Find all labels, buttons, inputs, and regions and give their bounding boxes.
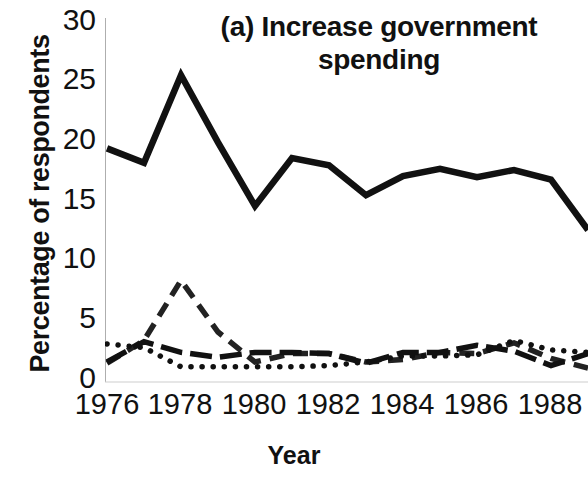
x-tick-1980: 1980 bbox=[222, 390, 287, 419]
x-axis-label: Year bbox=[0, 443, 588, 468]
x-tick-1982: 1982 bbox=[296, 390, 361, 419]
chart-figure: Percentage of respondents 30 25 20 15 10… bbox=[0, 0, 588, 484]
x-tick-1978: 1978 bbox=[148, 390, 213, 419]
x-tick-1976: 1976 bbox=[75, 390, 140, 419]
y-tick-25: 25 bbox=[38, 64, 96, 94]
x-tick-1984: 1984 bbox=[370, 390, 435, 419]
x-tick-1988: 1988 bbox=[518, 390, 583, 419]
y-tick-20: 20 bbox=[38, 124, 96, 154]
y-tick-30: 30 bbox=[38, 5, 96, 35]
y-tick-5: 5 bbox=[38, 303, 96, 333]
y-tick-15: 15 bbox=[38, 184, 96, 214]
y-tick-10: 10 bbox=[38, 243, 96, 273]
x-axis-tick-labels: 1976 1978 1980 1982 1984 1986 1988 bbox=[0, 390, 588, 430]
data-series-1 bbox=[107, 75, 588, 230]
x-tick-1986: 1986 bbox=[444, 390, 509, 419]
